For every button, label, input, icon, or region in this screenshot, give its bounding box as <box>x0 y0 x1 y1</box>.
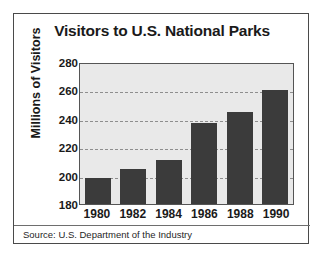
bar-1990 <box>262 90 288 204</box>
x-axis-tick-labels: 198019821984198619881990 <box>79 207 294 223</box>
x-axis-tick-1982: 1982 <box>115 207 151 223</box>
x-axis-tick-1988: 1988 <box>222 207 258 223</box>
bar-1982 <box>120 169 146 205</box>
x-axis-tick-1980: 1980 <box>79 207 115 223</box>
y-axis-tick-200: 200 <box>50 171 78 182</box>
chart-figure: Visitors to U.S. National Parks Millions… <box>13 13 309 244</box>
x-axis-tick-1990: 1990 <box>258 207 294 223</box>
bar-1986 <box>191 123 217 204</box>
y-axis-tick-260: 260 <box>50 86 78 97</box>
bar-series <box>80 64 293 204</box>
plot-area <box>79 63 294 205</box>
x-axis-tick-1986: 1986 <box>186 207 222 223</box>
bar-1988 <box>227 112 253 204</box>
y-axis-label: Millions of Visitors <box>29 13 43 153</box>
y-axis-tick-180: 180 <box>50 200 78 211</box>
bar-1980 <box>85 178 111 204</box>
y-axis-tick-labels: 180200220240260280 <box>50 57 78 205</box>
y-axis-tick-220: 220 <box>50 143 78 154</box>
y-axis-tick-280: 280 <box>50 58 78 69</box>
chart-title: Visitors to U.S. National Parks <box>14 22 310 40</box>
x-axis-tick-1984: 1984 <box>151 207 187 223</box>
bar-1984 <box>156 160 182 204</box>
source-divider <box>14 225 310 226</box>
y-axis-tick-240: 240 <box>50 114 78 125</box>
source-note: Source: U.S. Department of the Industry <box>23 229 192 240</box>
